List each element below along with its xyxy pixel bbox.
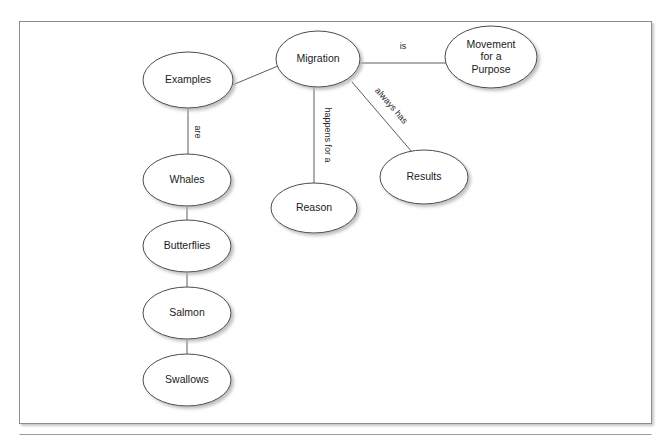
node-movement[interactable]: Movementfor aPurpose: [445, 26, 537, 88]
node-label-whales: Whales: [169, 173, 204, 185]
node-migration[interactable]: Migration: [276, 31, 360, 87]
diagram-stage: MigrationMovementfor aPurposeExamplesRea…: [0, 0, 671, 444]
node-label-butterflies: Butterflies: [164, 239, 211, 251]
node-label-results: Results: [406, 170, 441, 182]
node-label-reason: Reason: [296, 201, 332, 213]
node-results[interactable]: Results: [380, 150, 468, 204]
node-butterflies[interactable]: Butterflies: [143, 220, 231, 272]
concept-map-canvas: MigrationMovementfor aPurposeExamplesRea…: [0, 0, 671, 444]
node-label-migration: Migration: [296, 52, 339, 64]
node-salmon[interactable]: Salmon: [143, 287, 231, 339]
edge-label-migration-reason: happens for a: [323, 107, 333, 162]
node-label-swallows: Swallows: [165, 373, 209, 385]
node-whales[interactable]: Whales: [143, 154, 231, 206]
node-label-examples: Examples: [165, 73, 211, 85]
node-reason[interactable]: Reason: [271, 183, 357, 233]
edge-label-migration-movement: is: [400, 41, 407, 51]
node-label-salmon: Salmon: [169, 306, 205, 318]
node-swallows[interactable]: Swallows: [143, 354, 231, 406]
node-examples[interactable]: Examples: [143, 52, 233, 108]
edge-label-examples-whales: are: [193, 125, 203, 138]
